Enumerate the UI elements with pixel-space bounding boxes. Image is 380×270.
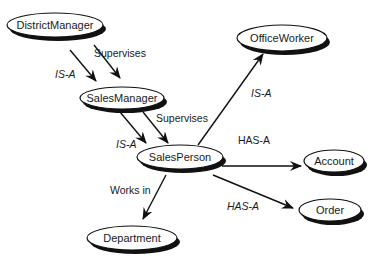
edges-layer [70, 45, 301, 219]
edge-label: IS-A [251, 87, 271, 99]
node-label: SalesManager [87, 92, 158, 104]
class-relationship-diagram: DistrictManagerSalesManagerSalesPersonOf… [0, 0, 380, 270]
node-label: Order [316, 204, 344, 216]
node-district-manager[interactable]: DistrictManager [7, 13, 106, 41]
node-account[interactable]: Account [304, 150, 367, 176]
node-department[interactable]: Department [87, 226, 180, 254]
edge-label: IS-A [55, 68, 75, 80]
node-sales-manager[interactable]: SalesManager [80, 87, 167, 113]
edge-label: HAS-A [227, 200, 259, 212]
node-sales-person[interactable]: SalesPerson [137, 145, 226, 173]
edge-label: HAS-A [238, 134, 270, 146]
edge-label: Supervises [94, 47, 146, 59]
node-label: Account [314, 155, 354, 167]
node-label: OfficeWorker [250, 32, 314, 44]
nodes-layer: DistrictManagerSalesManagerSalesPersonOf… [7, 13, 367, 254]
edge-label: IS-A [116, 138, 136, 150]
node-label: Department [103, 232, 160, 244]
node-label: SalesPerson [149, 151, 211, 163]
edge-label: Supervises [156, 112, 208, 124]
edge-sp-works-dept [143, 175, 166, 219]
edge-sp-isa-ow [198, 54, 263, 145]
node-office-worker[interactable]: OfficeWorker [237, 25, 330, 55]
edge-label: Works in [110, 184, 151, 196]
node-order[interactable]: Order [299, 199, 364, 225]
node-label: DistrictManager [16, 19, 93, 31]
